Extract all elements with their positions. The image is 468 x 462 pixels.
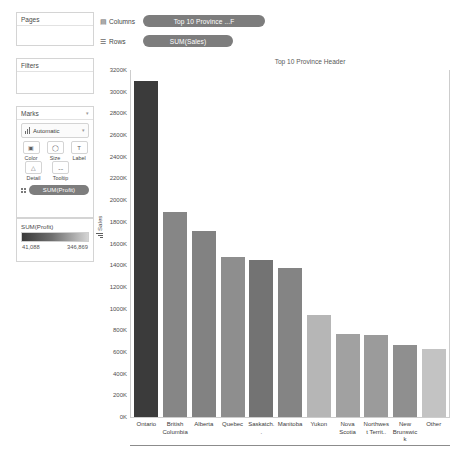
x-axis-tick-label[interactable]: British Columbia [161,421,190,445]
columns-icon: ▤ [100,18,109,25]
bar-slot [419,70,448,417]
y-axis: 3200K3000K2800K2600K2400K2200K2000K1800K… [100,60,130,425]
marks-card-title: Marks [21,110,39,117]
pages-card-title: Pages [21,16,39,23]
marks-label-label: Label [72,155,85,161]
y-axis-tick-label: 800K [113,327,127,333]
chart-plot [132,70,448,417]
left-panel: Pages Filters Marks ▾ Automatic ▾ [16,12,94,452]
bar-slot [333,70,362,417]
columns-shelf[interactable]: ▤ Columns Top 10 Province ...F [100,13,265,29]
bar-mark[interactable] [134,81,158,417]
marks-card: Marks ▾ Automatic ▾ ▣ Color ◯ Size [16,106,94,218]
rows-icon: ☰ [100,38,109,45]
bar-series [132,70,448,417]
filters-card: Filters [16,58,94,94]
y-axis-tick-label: 1200K [110,284,127,290]
x-axis-tick-label[interactable]: Yukon [304,421,333,445]
bar-chart-icon [25,128,30,134]
bar-slot [218,70,247,417]
filters-card-title: Filters [21,62,39,69]
x-axis: OntarioBritish ColumbiaAlbertaQuebecSask… [132,421,448,445]
x-axis-tick-label[interactable]: Quebec [218,421,247,445]
marks-color-pill[interactable]: SUM(Profit) [29,185,89,195]
y-axis-tick-label: 200K [113,392,127,398]
x-axis-tick-label[interactable]: Ontario [132,421,161,445]
columns-shelf-label: Columns [109,18,143,25]
color-legend-values: 41,088 346,869 [17,242,93,250]
y-axis-tick-label: 2800K [110,110,127,116]
color-swatch-icon [21,188,26,193]
x-axis-tick-label[interactable]: Saskatch.. [247,421,276,445]
color-legend-gradient[interactable] [21,232,89,242]
bar-mark[interactable] [278,268,302,417]
mark-type-dropdown[interactable]: Automatic ▾ [21,123,89,138]
pages-card: Pages [16,12,94,46]
mark-type-value: Automatic [33,128,79,134]
color-icon: ▣ [23,141,40,154]
color-legend-title: SUM(Profit) [17,219,93,232]
marks-tooltip-label: Tooltip [53,175,69,181]
y-axis-tick-label: 600K [113,349,127,355]
bar-slot [161,70,190,417]
color-legend-max: 346,869 [67,244,88,250]
rows-shelf[interactable]: ☰ Rows SUM(Sales) [100,33,233,49]
x-axis-tick-label[interactable]: Other [419,421,448,445]
bar-mark[interactable] [307,315,331,417]
bar-mark[interactable] [192,231,216,418]
y-axis-tick-label: 3200K [110,67,127,73]
chart-title: Top 10 Province Header [160,58,460,65]
bar-slot [132,70,161,417]
marks-encoding-row-2: △ Detail ⚋ Tooltip [17,161,93,181]
filters-card-body[interactable] [17,71,93,106]
bar-mark[interactable] [336,334,360,417]
bar-mark[interactable] [221,257,245,417]
x-axis-rule [130,445,450,446]
color-legend-min: 41,088 [22,244,40,250]
tableau-worksheet: Pages Filters Marks ▾ Automatic ▾ [0,0,468,462]
marks-size-button[interactable]: ◯ Size [44,141,66,161]
bar-mark[interactable] [422,349,446,417]
marks-pill-row: SUM(Profit) [17,181,93,195]
tooltip-icon: ⚋ [52,161,69,174]
color-legend-card: SUM(Profit) 41,088 346,869 [16,218,94,262]
y-axis-tick-label: 1000K [110,306,127,312]
marks-encoding-row-1: ▣ Color ◯ Size T Label [17,141,93,161]
x-axis-tick-label[interactable]: Northwest Territ.. [362,421,391,445]
marks-detail-button[interactable]: △ Detail [22,161,45,181]
y-axis-tick-label: 2600K [110,132,127,138]
marks-card-header: Marks ▾ [17,107,93,119]
marks-color-button[interactable]: ▣ Color [20,141,42,161]
bar-slot [362,70,391,417]
y-axis-tick-label: 0K [120,414,127,420]
marks-label-button[interactable]: T Label [68,141,90,161]
bar-mark[interactable] [163,212,187,417]
detail-icon: △ [25,161,42,174]
marks-card-body: Automatic ▾ ▣ Color ◯ Size T Label [17,119,93,195]
pages-card-header: Pages [17,13,93,25]
x-axis-tick-label[interactable]: Manitoba [276,421,305,445]
columns-pill[interactable]: Top 10 Province ...F [143,15,265,27]
label-icon: T [71,141,88,154]
x-axis-tick-label[interactable]: New Brunswick [391,421,420,445]
bar-mark[interactable] [249,260,273,417]
bar-slot [247,70,276,417]
rows-pill[interactable]: SUM(Sales) [143,35,233,47]
bar-slot [304,70,333,417]
bar-mark[interactable] [364,335,388,417]
marks-detail-label: Detail [27,175,41,181]
y-axis-tick-label: 1600K [110,241,127,247]
y-axis-tick-label: 400K [113,371,127,377]
y-axis-tick-label: 2200K [110,175,127,181]
y-axis-tick-label: 2000K [110,197,127,203]
size-icon: ◯ [47,141,64,154]
bar-slot [391,70,420,417]
x-axis-tick-label[interactable]: Nova Scotia [333,421,362,445]
y-axis-tick-label: 2400K [110,154,127,160]
chevron-down-icon[interactable]: ▾ [86,111,89,116]
pages-card-body[interactable] [17,25,93,58]
marks-tooltip-button[interactable]: ⚋ Tooltip [49,161,72,181]
chevron-down-icon[interactable]: ▾ [82,128,85,133]
bar-mark[interactable] [393,345,417,417]
x-axis-tick-label[interactable]: Alberta [189,421,218,445]
